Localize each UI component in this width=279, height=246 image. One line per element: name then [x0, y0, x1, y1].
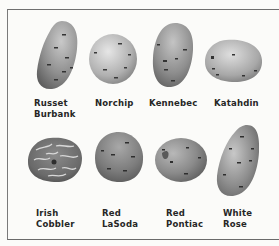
label-line: Norchip [95, 98, 134, 108]
label-red-lasoda: RedLaSoda [102, 208, 138, 230]
label-line: Irish [36, 208, 58, 218]
label-line: Red [102, 208, 121, 218]
label-line: Burbank [34, 109, 76, 119]
katahdin-potato-image [204, 38, 264, 84]
label-katahdin: Katahdin [214, 98, 259, 109]
label-line: Russet [34, 98, 68, 108]
red-lasoda-potato-image [93, 130, 145, 184]
kennebec-potato-image [151, 22, 195, 88]
label-line: Pontiac [166, 219, 203, 229]
label-line: Red [166, 208, 185, 218]
label-irish-cobbler: IrishCobbler [36, 208, 75, 230]
label-line: Katahdin [214, 98, 259, 108]
red-pontiac-potato-image [154, 137, 208, 183]
label-line: Cobbler [36, 219, 75, 229]
label-kennebec: Kennebec [149, 98, 198, 109]
label-red-pontiac: RedPontiac [166, 208, 203, 230]
label-norchip: Norchip [95, 98, 134, 109]
label-white-rose: WhiteRose [223, 208, 252, 230]
russet-burbank-potato-image [34, 19, 80, 91]
label-line: White [223, 208, 252, 218]
irish-cobbler-potato-image [26, 136, 84, 184]
norchip-potato-image [88, 33, 138, 85]
label-russet-burbank: RussetBurbank [34, 98, 76, 120]
label-line: Kennebec [149, 98, 198, 108]
white-rose-potato-image [215, 124, 261, 198]
label-line: Rose [223, 219, 247, 229]
label-line: LaSoda [102, 219, 138, 229]
